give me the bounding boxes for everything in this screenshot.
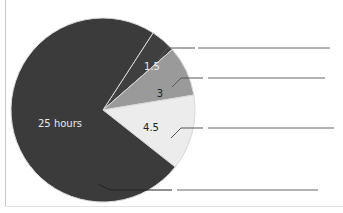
pie-chart: 1.534.525 hours	[0, 0, 343, 213]
slice-label: 1.5	[144, 61, 160, 72]
slice-label: 4.5	[143, 122, 159, 133]
slice-label: 25 hours	[38, 118, 82, 129]
slice-label: 3	[157, 88, 163, 99]
